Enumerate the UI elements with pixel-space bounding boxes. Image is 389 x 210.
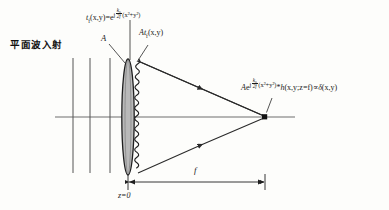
leader-focal-field — [267, 98, 273, 113]
leader-field-after-lens — [137, 45, 148, 62]
amplitude-label: A — [101, 34, 106, 43]
tf-args: (x,y) — [90, 13, 105, 22]
plane-wave-caption: 平面波入射 — [10, 40, 63, 50]
field-after-lens-label: Atf(x,y) — [139, 29, 163, 37]
tf-exponent: jk02f(x²+y²) — [113, 8, 140, 20]
z-origin-label: z=0 — [118, 192, 131, 200]
ff-exp-tail: (x²+y²) — [258, 81, 276, 88]
figure-canvas: 平面波入射 tf(x,y)=ejk02f(x²+y²) A Atf(x,y) A… — [0, 0, 389, 210]
focal-length-dimension — [128, 174, 265, 190]
ff-exp-fraction: k02f — [252, 78, 258, 90]
tf-exp-tail: (x²+y²) — [122, 11, 140, 18]
dimension-arrow-left — [129, 179, 135, 184]
ff-exp-den: 2f — [252, 84, 258, 89]
plane-wavefront-group — [73, 58, 110, 173]
converging-wavefront — [135, 59, 140, 168]
ff-exponent: jk02f(x²+y²) — [249, 78, 276, 90]
dimension-arrow-right — [258, 179, 264, 184]
optics-diagram-svg — [0, 0, 389, 210]
lens-transmittance-formula: tf(x,y)=ejk02f(x²+y²) — [86, 8, 140, 22]
leader-amplitude — [109, 44, 125, 63]
focal-point — [262, 114, 267, 119]
focal-length-label: f — [194, 166, 197, 175]
ff-delta-args: (x,y) — [322, 83, 337, 92]
ray-lower-arrow — [138, 118, 264, 173]
tf-exp-den: 2f — [116, 14, 122, 19]
ff-h-args: (x,y;z=f) — [284, 83, 312, 92]
tf-exp-fraction: k02f — [116, 8, 122, 20]
lens — [122, 59, 134, 175]
focal-field-formula: Aejk02f(x²+y²)*h(x,y;z=f)∝δ(x,y) — [241, 78, 337, 92]
atf-args: (x,y) — [148, 28, 163, 37]
